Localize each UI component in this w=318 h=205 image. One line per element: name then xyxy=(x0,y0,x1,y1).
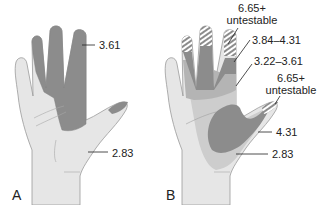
label-b-2-83: 2.83 xyxy=(272,148,293,160)
label-a-3-61: 3.61 xyxy=(99,39,120,51)
hands-diagram xyxy=(0,0,318,205)
label-b-3-22-3-61: 3.22–3.61 xyxy=(254,55,303,67)
label-b-thumb-tip: 6.65+ untestable xyxy=(264,72,318,96)
hand-b-index-tip-hatched xyxy=(182,36,192,52)
panel-label-b: B xyxy=(166,187,175,203)
hand-b-middle-tip-hatched xyxy=(200,26,212,46)
hand-b xyxy=(165,26,280,205)
label-a-2-83: 2.83 xyxy=(112,147,133,159)
hand-a xyxy=(15,26,128,205)
panel-label-a: A xyxy=(12,187,21,203)
label-b-fingertips: 6.65+ untestable xyxy=(224,2,280,26)
label-b-3-84-4-31: 3.84–4.31 xyxy=(252,34,301,46)
label-b-4-31: 4.31 xyxy=(276,126,297,138)
